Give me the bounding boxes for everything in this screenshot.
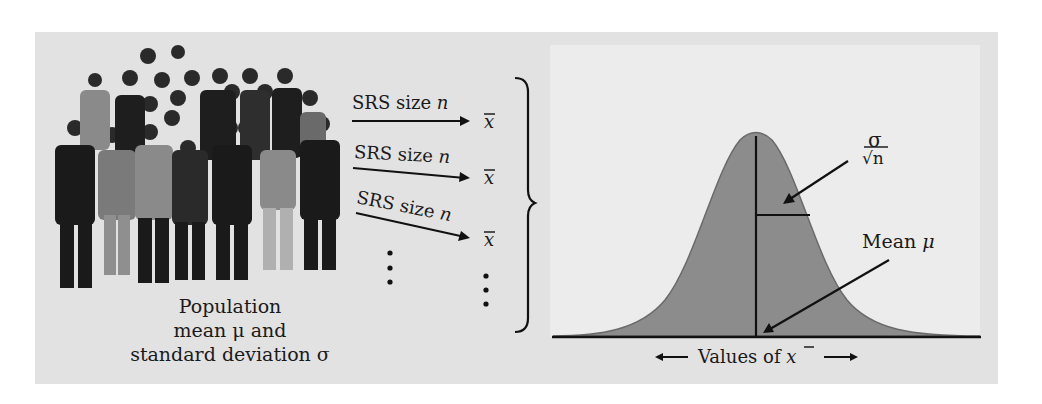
brace-icon: [515, 78, 535, 332]
mean-label: Mean μ: [862, 230, 935, 252]
sd-denominator: √n: [862, 148, 884, 168]
x-axis-label: Values of x: [698, 346, 796, 367]
sample-mean-2: x: [484, 167, 494, 188]
sample-size-symbol: n: [438, 145, 451, 167]
population-line2: mean μ and: [130, 318, 330, 342]
population-label: Population mean μ and standard deviation…: [130, 294, 330, 366]
population-line1: Population: [130, 294, 330, 318]
ellipsis-dots: [387, 250, 488, 306]
sample-text: SRS size: [353, 141, 433, 166]
axis-symbol: x: [786, 346, 796, 367]
sample-mean-1: x: [484, 111, 494, 132]
mean-text: Mean: [862, 230, 916, 252]
sample-size-symbol: n: [437, 92, 449, 113]
sample-mean-3: x: [484, 229, 494, 250]
axis-label-text: Values of: [698, 346, 781, 367]
mean-symbol: μ: [922, 230, 934, 252]
sample-label-1: SRS size n: [352, 92, 448, 113]
population-line3: standard deviation σ: [130, 342, 330, 366]
population-crowd-icon: [55, 45, 340, 288]
sample-text: SRS size: [352, 92, 431, 113]
